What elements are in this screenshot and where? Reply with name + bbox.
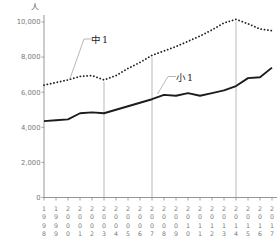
x-tick-label: 2004 xyxy=(114,205,118,237)
y-tick-label: 4,000 xyxy=(21,124,40,132)
y-axis-unit-label: 人 xyxy=(31,1,39,12)
x-tick-label: 2002 xyxy=(90,205,94,237)
y-tick-label: 8,000 xyxy=(21,53,40,61)
y-tick-label: 10,000 xyxy=(17,18,41,26)
chart-canvas: 02,0004,0006,0008,00010,0001998199920002… xyxy=(0,0,280,250)
x-tick-label: 2016 xyxy=(258,205,262,237)
x-tick-label: 2003 xyxy=(102,205,106,237)
sho1-solid-line xyxy=(44,68,272,122)
sho1-label-leader-line xyxy=(158,77,177,95)
x-tick-label: 2011 xyxy=(198,205,202,237)
x-tick-label: 2013 xyxy=(222,205,226,237)
x-tick-label: 2001 xyxy=(78,205,82,237)
x-tick-label: 2007 xyxy=(150,205,154,237)
x-tick-label: 2017 xyxy=(270,205,274,237)
x-tick-label: 2014 xyxy=(234,205,238,237)
chu1-label-leader-line xyxy=(70,39,92,80)
series-label-sho1: 小1 xyxy=(176,70,194,84)
line-chart: 02,0004,0006,0008,00010,0001998199920002… xyxy=(0,0,280,250)
x-tick-label: 2006 xyxy=(138,205,142,237)
x-tick-label: 2009 xyxy=(174,205,178,237)
y-tick-label: 0 xyxy=(36,194,40,202)
series-label-chu1: 中1 xyxy=(91,32,109,46)
y-tick-label: 6,000 xyxy=(21,89,40,97)
x-tick-label: 2005 xyxy=(126,205,130,237)
x-tick-label: 1998 xyxy=(42,205,46,237)
x-tick-label: 2008 xyxy=(162,205,166,237)
x-tick-label: 1999 xyxy=(54,205,58,237)
x-tick-label: 2010 xyxy=(186,205,190,237)
y-tick-label: 2,000 xyxy=(21,159,40,167)
chu1-dotted-line xyxy=(44,19,272,85)
x-tick-label: 2012 xyxy=(210,205,214,237)
x-tick-label: 2015 xyxy=(246,205,250,237)
x-tick-label: 2000 xyxy=(66,205,70,237)
